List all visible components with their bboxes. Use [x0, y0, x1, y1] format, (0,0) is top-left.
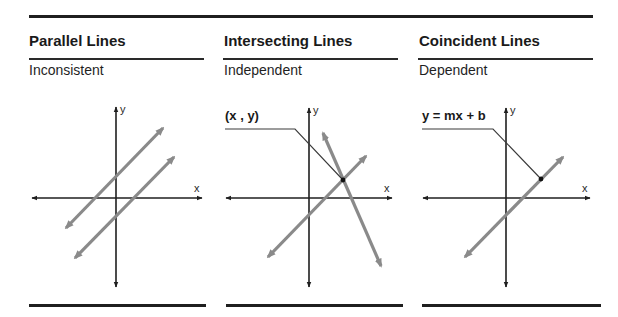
graph-line — [66, 128, 163, 228]
callout-point — [341, 178, 346, 183]
graph-coincident: xyy = mx + b — [422, 104, 590, 287]
graph-parallel: xy — [32, 103, 202, 287]
x-axis-label: x — [194, 182, 200, 194]
graph-line — [465, 157, 563, 257]
linear-systems-diagram: xyxy(x , y)xyy = mx + b — [0, 0, 618, 317]
callout-label: (x , y) — [225, 108, 259, 123]
callout-leader-line — [422, 129, 541, 179]
x-axis-label: x — [384, 182, 390, 194]
graph-line — [268, 156, 366, 257]
graph-line — [323, 133, 381, 266]
y-axis-label: y — [510, 104, 516, 116]
bottom-rule — [226, 304, 403, 307]
bottom-rule — [29, 304, 206, 307]
callout-point — [539, 177, 544, 182]
y-axis-label: y — [313, 104, 319, 116]
graph-line — [75, 157, 174, 258]
callout-label: y = mx + b — [422, 108, 486, 123]
bottom-rule — [422, 304, 601, 307]
y-axis-label: y — [120, 103, 126, 115]
graph-intersecting: xy(x , y) — [225, 104, 392, 287]
x-axis-label: x — [582, 182, 588, 194]
